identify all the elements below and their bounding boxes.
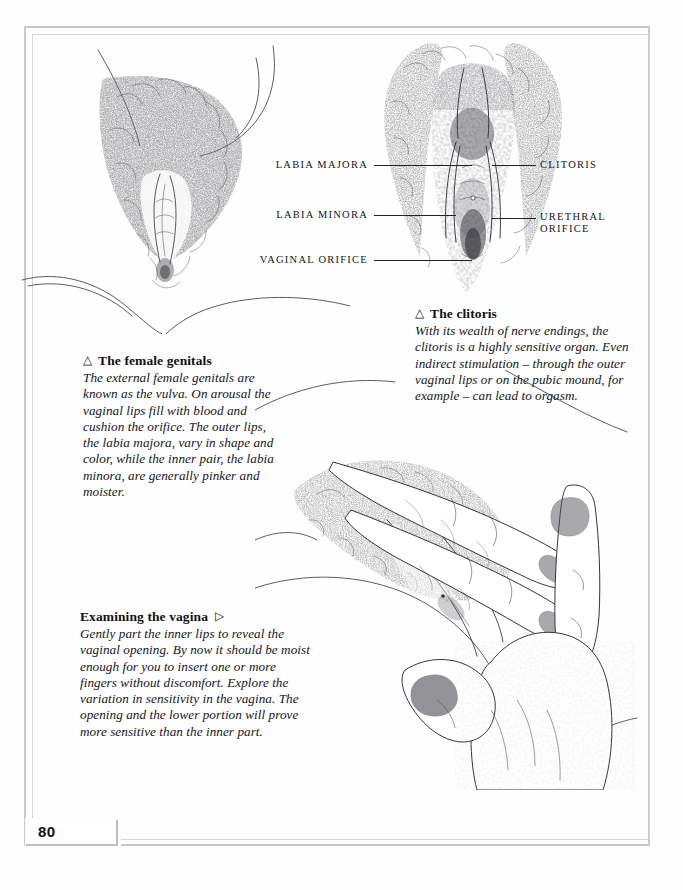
label-vaginal-orifice: VAGINAL ORIFICE: [210, 253, 368, 266]
page-number-box: 80: [26, 820, 118, 846]
triangle-right-icon: ▷: [215, 608, 224, 624]
caption-body-female-genitals: The external female genitals are known a…: [83, 370, 283, 500]
caption-examining-vagina: Examining the vagina▷ Gently part the in…: [80, 608, 312, 740]
caption-heading-text: The female genitals: [98, 353, 212, 368]
leader-line-labia-minora: [374, 215, 456, 216]
leader-line-vaginal-orifice: [374, 260, 472, 261]
label-clitoris: CLITORIS: [540, 158, 597, 171]
caption-clitoris: △The clitoris With its wealth of nerve e…: [415, 305, 647, 404]
book-page: 80: [0, 0, 683, 890]
leader-line-labia-majora: [374, 165, 472, 166]
caption-heading-female-genitals: △The female genitals: [83, 352, 283, 369]
leader-line-urethral-orifice: [492, 218, 536, 219]
caption-heading-examining-vagina: Examining the vagina▷: [80, 608, 312, 625]
caption-body-clitoris: With its wealth of nerve endings, the cl…: [415, 323, 647, 404]
label-labia-majora: LABIA MAJORA: [228, 158, 368, 171]
triangle-up-icon: △: [415, 305, 424, 321]
clitoris-closeup-illustration: [378, 38, 568, 308]
page-number: 80: [38, 823, 56, 840]
examining-vagina-illustration: [255, 370, 655, 790]
female-genitals-illustration: [20, 34, 350, 334]
caption-heading-text: Examining the vagina: [80, 609, 208, 624]
leader-line-clitoris: [492, 165, 536, 166]
caption-heading-text: The clitoris: [430, 306, 497, 321]
caption-body-examining-vagina: Gently part the inner lips to reveal the…: [80, 626, 312, 740]
caption-heading-clitoris: △The clitoris: [415, 305, 647, 322]
triangle-up-icon: △: [83, 352, 92, 368]
caption-female-genitals: △The female genitals The external female…: [83, 352, 283, 500]
label-orifice: ORIFICE: [540, 222, 590, 235]
label-labia-minora: LABIA MINORA: [228, 208, 368, 221]
